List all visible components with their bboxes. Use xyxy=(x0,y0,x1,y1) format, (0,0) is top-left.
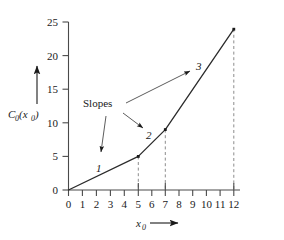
y-tick-label-5: 5 xyxy=(53,150,59,162)
y-tick-label-10: 10 xyxy=(47,117,59,129)
x-axis-label: x 0 xyxy=(135,217,178,232)
x-tick-label-4: 4 xyxy=(122,198,128,210)
y-axis-label-close: ) xyxy=(34,108,39,121)
curve-polyline xyxy=(69,29,234,190)
chart-canvas: 25 20 15 10 5 0 0 1 2 3 xyxy=(0,0,284,240)
x-axis-label-sub: 0 xyxy=(142,223,146,232)
x-tick-label-1: 1 xyxy=(80,198,86,210)
data-point-12-24 xyxy=(232,28,235,31)
x-tick-label-3: 3 xyxy=(108,198,114,210)
y-axis-label: C 0 (x 0 ) xyxy=(8,108,39,123)
y-axis-label-open: (x xyxy=(19,108,28,121)
slopes-label: Slopes xyxy=(83,97,112,109)
y-tick-label-15: 15 xyxy=(47,83,59,95)
droplines xyxy=(138,29,234,190)
y-tick-label-25: 25 xyxy=(47,16,59,28)
x-tick-label-8: 8 xyxy=(176,198,182,210)
annotation-labels: Slopes 1 2 3 xyxy=(83,60,202,174)
x-tick-label-12: 12 xyxy=(228,198,239,210)
figure-piecewise-linear-cost: 25 20 15 10 5 0 0 1 2 3 xyxy=(0,0,284,240)
y-tick-marks xyxy=(63,22,69,190)
x-tick-label-9: 9 xyxy=(190,198,196,210)
data-point-5-5 xyxy=(137,155,140,158)
x-tick-labels: 0 1 2 3 4 5 6 7 8 9 10 11 12 xyxy=(66,198,240,210)
leader-to-slope-2 xyxy=(123,113,143,128)
y-tick-labels: 25 20 15 10 5 0 xyxy=(47,16,59,196)
x-axis-label-x: x xyxy=(135,217,141,229)
slope-2-label: 2 xyxy=(146,129,152,141)
data-point-7-9 xyxy=(164,128,167,131)
slope-3-label: 3 xyxy=(195,60,202,72)
slope-1-label: 1 xyxy=(96,162,102,174)
leader-to-slope-1 xyxy=(101,116,106,152)
x-tick-label-6: 6 xyxy=(149,198,155,210)
leader-to-slope-3 xyxy=(126,71,190,103)
x-tick-label-5: 5 xyxy=(136,198,142,210)
x-tick-label-11: 11 xyxy=(215,198,226,210)
x-tick-label-0: 0 xyxy=(66,198,72,210)
y-tick-label-20: 20 xyxy=(47,50,59,62)
x-tick-label-2: 2 xyxy=(94,198,100,210)
x-tick-label-7: 7 xyxy=(163,198,169,210)
x-tick-label-10: 10 xyxy=(201,198,213,210)
y-tick-label-0: 0 xyxy=(53,184,59,196)
